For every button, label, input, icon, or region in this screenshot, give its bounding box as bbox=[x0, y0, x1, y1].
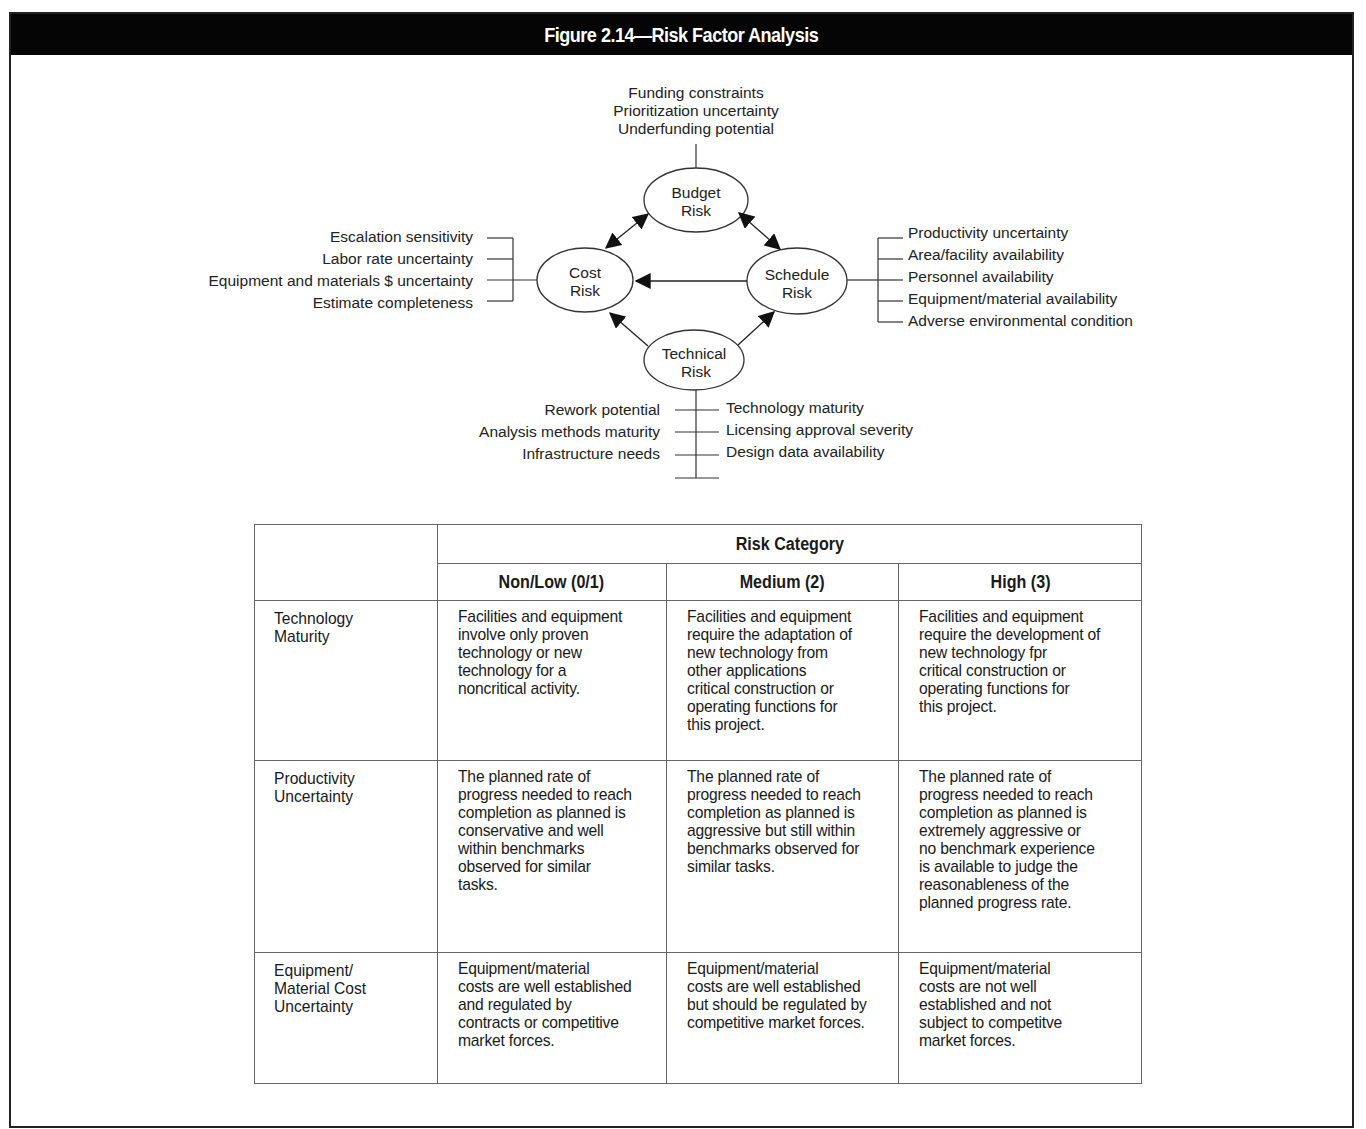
arrow-technical-schedule bbox=[738, 312, 774, 345]
technical-factors-right: Technology maturity Licensing approval s… bbox=[726, 399, 913, 460]
technical-bracket bbox=[675, 390, 719, 478]
schedule-risk-node: Schedule Risk bbox=[747, 248, 847, 314]
schedule-factor: Area/facility availability bbox=[908, 246, 1064, 263]
risk-diagram: Funding constraints Prioritization uncer… bbox=[0, 0, 1366, 520]
schedule-factor: Adverse environmental condition bbox=[908, 312, 1133, 329]
budget-factor: Funding constraints bbox=[628, 84, 764, 101]
table-row: Productivity Uncertainty The planned rat… bbox=[255, 761, 1142, 953]
cost-risk-label: Risk bbox=[570, 282, 600, 299]
row-label-technology-maturity: Technology Maturity bbox=[255, 601, 438, 761]
schedule-bracket bbox=[847, 238, 903, 322]
cost-factor: Equipment and materials $ uncertainty bbox=[208, 272, 473, 289]
arrow-budget-cost bbox=[606, 214, 648, 248]
table-row: Equipment/ Material Cost Uncertainty Equ… bbox=[255, 953, 1142, 1084]
technical-risk-label: Risk bbox=[681, 363, 711, 380]
technical-factor: Design data availability bbox=[726, 443, 885, 460]
table-cell: The planned rate of progress needed to r… bbox=[666, 761, 899, 953]
technical-risk-node: Technical Risk bbox=[644, 330, 744, 390]
row-label-productivity-uncertainty: Productivity Uncertainty bbox=[255, 761, 438, 953]
budget-factors: Funding constraints Prioritization uncer… bbox=[613, 84, 779, 137]
column-header-non-low: Non/Low (0/1) bbox=[437, 564, 666, 601]
budget-risk-label: Risk bbox=[681, 202, 711, 219]
column-header-medium: Medium (2) bbox=[666, 564, 899, 601]
cost-risk-node: Cost Risk bbox=[537, 248, 633, 312]
table-cell: Facilities and equipment require the dev… bbox=[899, 601, 1142, 761]
column-header-high: High (3) bbox=[899, 564, 1142, 601]
schedule-factors: Productivity uncertainty Area/facility a… bbox=[908, 224, 1133, 329]
cost-risk-label: Cost bbox=[569, 264, 602, 281]
budget-risk-node: Budget Risk bbox=[644, 168, 748, 232]
table-cell: Equipment/material costs are not well es… bbox=[899, 953, 1142, 1084]
technical-factor: Infrastructure needs bbox=[522, 445, 660, 462]
schedule-factor: Productivity uncertainty bbox=[908, 224, 1068, 241]
schedule-risk-label: Schedule bbox=[765, 266, 830, 283]
table-row: Technology Maturity Facilities and equip… bbox=[255, 601, 1142, 761]
table-cell: The planned rate of progress needed to r… bbox=[437, 761, 666, 953]
risk-category-table: Risk Category Non/Low (0/1) Medium (2) H… bbox=[254, 524, 1142, 1084]
arrow-technical-cost bbox=[610, 313, 648, 346]
cost-factor: Labor rate uncertainty bbox=[322, 250, 473, 267]
table-cell: Equipment/material costs are well establ… bbox=[437, 953, 666, 1084]
table-cell: Facilities and equipment require the ada… bbox=[666, 601, 899, 761]
schedule-risk-label: Risk bbox=[782, 284, 812, 301]
table-corner-cell bbox=[255, 525, 438, 601]
table-cell: Equipment/material costs are well establ… bbox=[666, 953, 899, 1084]
technical-factor: Licensing approval severity bbox=[726, 421, 913, 438]
cost-factor: Escalation sensitivity bbox=[330, 228, 473, 245]
budget-factor: Prioritization uncertainty bbox=[613, 102, 779, 119]
schedule-factor: Personnel availability bbox=[908, 268, 1054, 285]
table-cell: The planned rate of progress needed to r… bbox=[899, 761, 1142, 953]
technical-factor: Technology maturity bbox=[726, 399, 864, 416]
technical-factor: Rework potential bbox=[545, 401, 660, 418]
technical-factors-left: Rework potential Analysis methods maturi… bbox=[479, 401, 660, 462]
cost-factor: Estimate completeness bbox=[313, 294, 473, 311]
budget-factor: Underfunding potential bbox=[618, 120, 774, 137]
arrow-budget-schedule bbox=[739, 213, 780, 249]
technical-risk-label: Technical bbox=[662, 345, 727, 362]
row-label-equipment-material-cost-uncertainty: Equipment/ Material Cost Uncertainty bbox=[255, 953, 438, 1084]
cost-factors: Escalation sensitivity Labor rate uncert… bbox=[208, 228, 473, 311]
budget-risk-label: Budget bbox=[671, 184, 721, 201]
schedule-factor: Equipment/material availability bbox=[908, 290, 1118, 307]
cost-bracket bbox=[487, 238, 537, 301]
risk-category-header: Risk Category bbox=[437, 525, 1141, 564]
table-cell: Facilities and equipment involve only pr… bbox=[437, 601, 666, 761]
technical-factor: Analysis methods maturity bbox=[479, 423, 660, 440]
